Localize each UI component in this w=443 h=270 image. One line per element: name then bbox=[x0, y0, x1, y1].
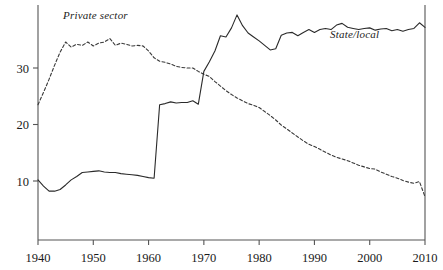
y-axis-tick-label: 10 bbox=[17, 175, 30, 189]
chart-container: 10203019401950196019701980199020002010 P… bbox=[0, 0, 443, 270]
x-axis-tick-label: 1940 bbox=[26, 251, 51, 265]
axis-ticks bbox=[33, 68, 425, 245]
axis-lines bbox=[38, 5, 425, 240]
x-axis-tick-label: 1990 bbox=[302, 251, 327, 265]
axis-tick-labels: 10203019401950196019701980199020002010 bbox=[17, 62, 438, 266]
y-axis-tick-label: 30 bbox=[17, 62, 30, 76]
series-label-state-local: State/local bbox=[330, 28, 379, 40]
series-lines bbox=[38, 15, 425, 197]
y-axis-tick-label: 20 bbox=[17, 118, 30, 132]
x-axis-tick-label: 1980 bbox=[247, 251, 272, 265]
x-axis-tick-label: 1960 bbox=[136, 251, 161, 265]
x-axis-tick-label: 2010 bbox=[413, 251, 438, 265]
x-axis-tick-label: 1950 bbox=[81, 251, 106, 265]
line-chart: 10203019401950196019701980199020002010 bbox=[0, 0, 443, 270]
x-axis-tick-label: 1970 bbox=[191, 251, 216, 265]
x-axis-tick-label: 2000 bbox=[357, 251, 382, 265]
series-label-private-sector: Private sector bbox=[63, 9, 128, 21]
series-line-state-local bbox=[38, 15, 425, 191]
series-line-private-sector bbox=[38, 39, 425, 197]
